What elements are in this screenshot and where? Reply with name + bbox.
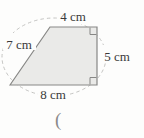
geometry-diagram: 4 cm 7 cm 5 cm 8 cm ( — [0, 0, 144, 138]
side-label-left: 7 cm — [6, 37, 32, 52]
trapezoid-figure: 4 cm 7 cm 5 cm 8 cm ( — [0, 0, 144, 138]
side-label-top: 4 cm — [60, 9, 86, 24]
parenthesis-annotation: ( — [55, 109, 61, 131]
side-label-right: 5 cm — [104, 49, 130, 64]
side-label-bottom: 8 cm — [40, 87, 66, 102]
